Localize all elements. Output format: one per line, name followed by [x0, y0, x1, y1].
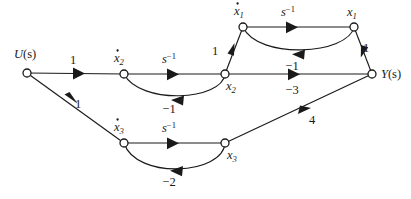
dot-accent-x2dot	[116, 49, 118, 51]
edge-label-x1dot-to-x1-sup: −1	[286, 4, 295, 14]
node-x1dot[interactable]	[239, 23, 247, 31]
node-label-Y-paren: (s)	[388, 67, 401, 81]
edge-x2-to-x1dot	[225, 27, 243, 74]
edge-line	[243, 27, 354, 50]
edge-label-x1-to-x1dot: −1	[285, 59, 298, 73]
node-label-x1dot-sub: 1	[240, 10, 244, 20]
edge-label-x2-to-Y: −3	[285, 83, 298, 97]
dot-accent-x1dot	[236, 2, 238, 4]
edge-x1-to-x1dot	[243, 27, 354, 60]
arrow-head	[228, 43, 235, 56]
node-label-x2-sub: 2	[232, 85, 237, 95]
node-label-x3: x3	[226, 148, 237, 164]
edge-line	[124, 143, 225, 169]
node-label-U-paren: (s)	[23, 47, 36, 61]
edge-label-x3dot-to-x3-sup: −1	[167, 120, 176, 130]
arrow-head	[73, 68, 85, 80]
edge-U-to-x2dot	[27, 68, 124, 80]
node-label-Y: Y(s)	[381, 67, 401, 81]
edge-x1dot-to-x1	[243, 21, 354, 33]
node-x2dot[interactable]	[120, 70, 128, 78]
node-x1[interactable]	[350, 23, 358, 31]
signal-flow-graph-canvas: U(s) x2 x2 x1 x1 Y(s) x3 x3 1 s−1 −1 1 s…	[0, 0, 411, 199]
arrow-head	[286, 21, 298, 33]
node-x3[interactable]	[221, 139, 229, 147]
node-Y[interactable]	[368, 70, 376, 78]
edge-x3-to-x3dot	[124, 143, 225, 176]
edge-label-x2-to-x2dot: −1	[162, 102, 175, 116]
edge-x2dot-to-x2	[124, 68, 225, 80]
node-label-x1dot: x1	[233, 4, 244, 20]
node-label-x2dot-sub: 2	[120, 57, 125, 67]
node-label-x2: x2	[225, 79, 237, 95]
node-label-x2dot: x2	[113, 51, 125, 67]
edge-label-x3-to-Y: 4	[309, 113, 316, 127]
edge-label-x2-to-x1dot: 1	[212, 44, 218, 58]
edge-label-U-to-x2dot: 1	[70, 53, 76, 67]
node-x2[interactable]	[221, 70, 229, 78]
node-label-x3dot-sub: 3	[119, 126, 124, 136]
edge-x3dot-to-x3	[124, 137, 225, 149]
node-label-x1: x1	[346, 5, 357, 21]
dot-accent-x3dot	[116, 118, 118, 120]
node-label-U: U(s)	[14, 47, 36, 61]
edge-label-x1dot-to-x1: s−1	[281, 4, 295, 19]
node-label-x3dot: x3	[113, 120, 124, 136]
edge-label-x1-to-Y: 1	[363, 41, 369, 55]
edge-label-x2dot-to-x2: s−1	[162, 51, 176, 66]
edge-label-U-to-x3dot: 1	[75, 97, 81, 111]
edge-label-x3-to-x3dot: −2	[162, 175, 175, 189]
node-U[interactable]	[23, 69, 31, 77]
edge-label-x2dot-to-x2-sup: −1	[167, 51, 176, 61]
edge-label-x3dot-to-x3: s−1	[162, 120, 176, 135]
arrow-head	[167, 68, 179, 80]
node-label-x3-sub: 3	[232, 154, 237, 164]
arrow-head	[167, 137, 179, 149]
edge-line	[124, 74, 225, 96]
edge-x2-to-x2dot	[124, 74, 225, 106]
node-label-x1-sub: 1	[353, 11, 357, 21]
signal-flow-graph-figure: U(s) x2 x2 x1 x1 Y(s) x3 x3 1 s−1 −1 1 s…	[0, 0, 411, 199]
node-x3dot[interactable]	[120, 139, 128, 147]
